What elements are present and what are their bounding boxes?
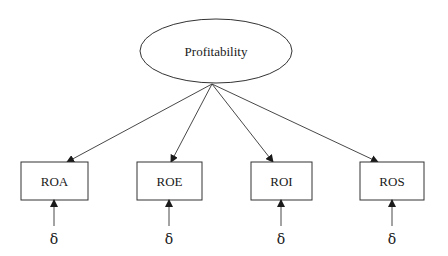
indicator-roa: ROAδ [21, 162, 88, 247]
factor-loading-arrows [67, 84, 378, 162]
loading-arrow-roi [212, 84, 273, 162]
indicator-ros: ROSδ [360, 162, 424, 247]
error-term-label: δ [165, 231, 173, 247]
indicator-roi: ROIδ [251, 162, 312, 247]
indicator-label: ROI [270, 174, 292, 189]
loading-arrow-roe [171, 84, 212, 162]
indicator-roe: ROEδ [137, 162, 202, 247]
latent-node-profitability: Profitability [140, 19, 292, 83]
indicator-nodes: ROAδROEδROIδROSδ [21, 162, 424, 247]
indicator-label: ROS [379, 174, 404, 189]
latent-label: Profitability [185, 44, 248, 59]
sem-diagram: Profitability ROAδROEδROIδROSδ [0, 0, 448, 256]
indicator-label: ROE [157, 174, 183, 189]
loading-arrow-roa [67, 84, 212, 162]
indicator-label: ROA [41, 174, 69, 189]
error-term-label: δ [277, 231, 285, 247]
loading-arrow-ros [212, 84, 378, 162]
error-term-label: δ [50, 231, 58, 247]
error-term-label: δ [388, 231, 396, 247]
